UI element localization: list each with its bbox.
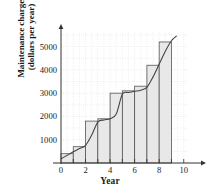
x-tick-label: 6 <box>132 165 137 175</box>
y-tick-label: 4000 <box>40 65 57 75</box>
x-tick-label: 4 <box>108 165 113 175</box>
bar <box>110 93 122 163</box>
bars-group <box>61 42 171 163</box>
x-tick-label: 0 <box>59 165 63 175</box>
x-axis-label: Year <box>0 176 220 186</box>
maintenance-charges-chart: 0246810 10002000300040005000 Maintenance… <box>0 0 220 193</box>
bar <box>122 91 134 163</box>
y-tick-label: 3000 <box>40 88 57 98</box>
y-axis-label-line-2: (dollars per year) <box>26 4 37 70</box>
x-tick-label: 8 <box>157 165 161 175</box>
bar <box>135 86 147 163</box>
y-axis-label: Maintenance charges (dollars per year) <box>13 0 39 97</box>
y-tick-label: 5000 <box>40 42 57 52</box>
bar <box>98 119 110 163</box>
y-tick-label: 2000 <box>40 111 57 121</box>
x-axis-arrow <box>201 161 206 166</box>
y-axis-arrow <box>59 24 64 29</box>
y-tick-label: 1000 <box>40 135 57 145</box>
x-tick-label: 10 <box>179 165 188 175</box>
y-axis-label-line-1: Maintenance charges <box>16 0 27 78</box>
y-axis-ticks: 10002000300040005000 <box>40 42 57 145</box>
x-tick-label: 2 <box>83 165 87 175</box>
bar <box>147 65 159 163</box>
